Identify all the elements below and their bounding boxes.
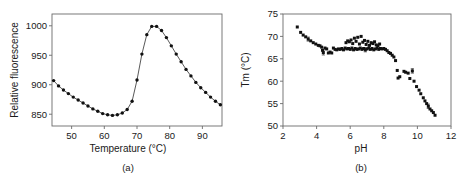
data-point xyxy=(423,99,426,102)
data-point xyxy=(72,95,75,98)
data-point xyxy=(392,56,395,59)
data-point xyxy=(378,43,381,46)
yaxis-tick-label: 850 xyxy=(31,109,47,120)
yaxis-tick-label: 55 xyxy=(267,98,278,109)
data-point xyxy=(432,111,435,114)
data-point xyxy=(130,100,133,103)
data-point xyxy=(194,81,197,84)
data-point xyxy=(135,78,138,81)
data-point xyxy=(214,100,217,103)
panel-b-yaxis-title: Tm (°C) xyxy=(240,52,251,87)
xaxis-tick-label: 90 xyxy=(197,130,208,141)
panel-a-xaxis-title: Temperature (°C) xyxy=(90,143,167,154)
data-point xyxy=(101,112,104,115)
xaxis-tick-label: 70 xyxy=(132,130,143,141)
data-point xyxy=(408,77,411,80)
xaxis-tick-label: 8 xyxy=(381,130,386,141)
panel-a-svg: 50607080908509009501000 Temperature (°C)… xyxy=(0,0,233,177)
data-point xyxy=(121,111,124,114)
panel-b-xaxis-title: pH xyxy=(355,143,368,154)
data-point xyxy=(155,25,158,28)
data-point xyxy=(425,102,428,105)
panel-a-caption: (a) xyxy=(122,162,134,173)
plot-frame xyxy=(52,14,222,126)
data-point xyxy=(91,107,94,110)
data-point xyxy=(165,36,168,39)
data-point xyxy=(299,31,302,34)
panel-a-plot-area: 50607080908509009501000 xyxy=(26,14,222,141)
data-point xyxy=(184,68,187,71)
data-point xyxy=(360,35,363,38)
data-point xyxy=(67,92,70,95)
panel-b-plot-area: 24681012505560657075 xyxy=(267,8,456,141)
data-point xyxy=(145,33,148,36)
data-point xyxy=(325,47,328,50)
data-point xyxy=(116,113,119,116)
data-point xyxy=(350,38,353,41)
data-point xyxy=(86,104,89,107)
xaxis-tick-label: 60 xyxy=(99,130,110,141)
data-point xyxy=(62,88,65,91)
yaxis-tick-label: 900 xyxy=(31,79,47,90)
xaxis-tick-label: 80 xyxy=(164,130,175,141)
data-point xyxy=(199,86,202,89)
data-point xyxy=(415,85,418,88)
data-point xyxy=(204,91,207,94)
data-point xyxy=(356,36,359,39)
yaxis-tick-label: 70 xyxy=(267,31,278,42)
data-point xyxy=(368,44,371,47)
yaxis-tick-label: 1000 xyxy=(26,20,47,31)
yaxis-tick-label: 75 xyxy=(267,8,278,19)
data-point xyxy=(365,43,368,46)
data-point xyxy=(106,113,109,116)
data-point xyxy=(398,75,401,78)
data-point xyxy=(209,95,212,98)
chart-panel-b: 24681012505560657075 pH Tm (°C) (b) xyxy=(233,0,467,177)
figure-container: 50607080908509009501000 Temperature (°C)… xyxy=(0,0,467,177)
yaxis-tick-label: 65 xyxy=(267,53,278,64)
data-point xyxy=(140,52,143,55)
yaxis-tick-label: 50 xyxy=(267,120,278,131)
data-point xyxy=(351,42,354,45)
data-point xyxy=(76,98,79,101)
xaxis-tick-label: 12 xyxy=(446,130,457,141)
data-point xyxy=(219,103,222,106)
panel-b-svg: 24681012505560657075 pH Tm (°C) (b) xyxy=(233,0,467,177)
data-point xyxy=(189,74,192,77)
xaxis-tick-label: 50 xyxy=(66,130,77,141)
data-point xyxy=(418,89,421,92)
data-point xyxy=(320,46,323,49)
data-point xyxy=(179,60,182,63)
data-point xyxy=(373,40,376,43)
series-line-fluorescence xyxy=(54,26,221,115)
data-point xyxy=(322,51,325,54)
data-point xyxy=(422,96,425,99)
xaxis-tick-label: 4 xyxy=(314,130,319,141)
data-point xyxy=(394,59,397,62)
yaxis-tick-label: 950 xyxy=(31,50,47,61)
panel-b-caption: (b) xyxy=(355,162,367,173)
data-point xyxy=(111,114,114,117)
data-point xyxy=(330,51,333,54)
data-point xyxy=(125,108,128,111)
data-point xyxy=(358,43,361,46)
data-point xyxy=(150,25,153,28)
data-point xyxy=(296,25,299,28)
yaxis-tick-label: 60 xyxy=(267,76,278,87)
data-point xyxy=(419,92,422,95)
data-point xyxy=(96,110,99,113)
data-point xyxy=(407,72,410,75)
data-point xyxy=(52,79,55,82)
xaxis-tick-label: 2 xyxy=(280,130,285,141)
data-point xyxy=(396,69,399,72)
data-point xyxy=(355,40,358,43)
data-point xyxy=(81,101,84,104)
data-point xyxy=(427,105,430,108)
data-point xyxy=(175,52,178,55)
data-point xyxy=(353,37,356,40)
panel-a-yaxis-title: Relative fluorescence xyxy=(9,22,20,118)
data-point xyxy=(57,84,60,87)
data-point xyxy=(411,69,414,72)
data-point xyxy=(434,114,437,117)
data-point xyxy=(170,44,173,47)
